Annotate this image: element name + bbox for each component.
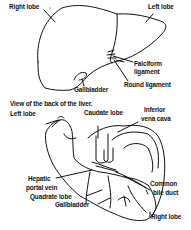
label-left-lobe-back: Left lobe [10, 110, 36, 117]
label-gallbladder-front: Gallbladder [74, 86, 108, 93]
label-inferior-vena-cava-line1: Inferior [144, 106, 165, 113]
label-inferior-vena-cava-line2: vena cava [141, 115, 171, 122]
back-view-title: View of the back of the liver. [10, 100, 92, 107]
label-common-bile-duct-line1: Common [150, 180, 177, 187]
liver-diagram: Right lobe Left lobe Falciform ligament … [0, 0, 191, 230]
label-round-ligament: Round ligament [124, 81, 171, 88]
label-gallbladder-back: Gallbladder [55, 201, 89, 208]
label-hepatic-portal-vein-line2: portal vein [26, 184, 57, 191]
label-quadrate-lobe: Quadrate lobe [30, 193, 72, 200]
label-common-bile-duct-line2: bile duct [153, 189, 178, 196]
label-right-lobe: Right lobe [9, 3, 39, 10]
label-caudate-lobe: Caudate lobe [84, 109, 123, 116]
label-hepatic-portal-vein-line1: Hepatic [28, 175, 50, 182]
label-left-lobe: Left lobe [148, 3, 174, 10]
label-falciform-ligament-line2: ligament [134, 68, 159, 75]
label-falciform-ligament-line1: Falciform [134, 60, 162, 67]
label-right-lobe-back: Right lobe [151, 213, 181, 220]
